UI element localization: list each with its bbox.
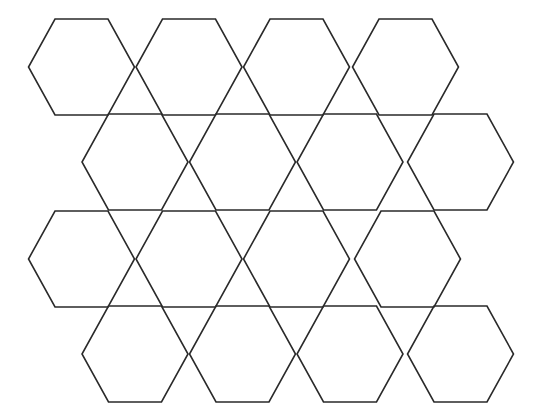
hexagon-r1-c2	[136, 19, 242, 115]
hexagon-r2-c2	[190, 114, 296, 210]
hexagon-r2-c1	[82, 114, 188, 210]
hexagon-pattern-diagram	[0, 0, 544, 413]
hexagon-r4-c1	[82, 306, 188, 402]
hexagon-r2-c4	[408, 114, 514, 210]
hexagon-r3-c2	[136, 211, 242, 307]
hexagon-r4-c3	[297, 306, 403, 402]
hexagon-r2-c3	[297, 114, 403, 210]
hexagon-r3-c4	[355, 211, 461, 307]
hexagon-pattern-canvas	[0, 0, 544, 413]
hexagon-r3-c3	[244, 211, 350, 307]
hexagon-r1-c3	[244, 19, 350, 115]
hexagon-r4-c2	[190, 306, 296, 402]
hexagon-r4-c4	[408, 306, 514, 402]
hexagon-r1-c1	[29, 19, 135, 115]
hexagon-r1-c4	[353, 19, 459, 115]
hexagon-r3-c1	[29, 211, 135, 307]
